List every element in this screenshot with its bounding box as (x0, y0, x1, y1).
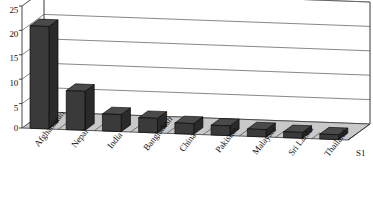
bar-afghanistan (30, 19, 58, 129)
plot-area (0, 0, 373, 199)
bar-nepal (66, 84, 94, 130)
bar-chart-3d: 25 20 15 10 5 0 AfghanistanNepalIndiaBan… (0, 0, 373, 199)
bar-india (102, 107, 130, 131)
bar-bangladesh (139, 111, 167, 133)
series-legend-label: S1 (356, 149, 366, 158)
